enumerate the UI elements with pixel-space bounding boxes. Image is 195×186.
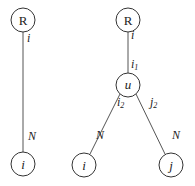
right-tree: R u i j i i1 i2 j2 N N <box>72 8 183 177</box>
internal-node-label: u <box>125 77 132 92</box>
root-node-label: R <box>124 13 133 28</box>
tree-diagram: R i i N R u i j i i1 i2 j2 N N <box>0 0 195 186</box>
left-tree: R i i N <box>11 8 37 176</box>
edge-label-left-top: i2 <box>117 95 124 110</box>
edge-label-u-top: i1 <box>131 57 138 72</box>
edge-label-left-top-sub: 2 <box>120 101 124 110</box>
leaf-i-label: i <box>82 158 86 173</box>
edge-label-root: i <box>131 28 134 42</box>
edge-label-top: i <box>27 31 30 45</box>
leaf-node-label: i <box>21 157 25 172</box>
edge-label-right-top: j2 <box>148 95 157 110</box>
root-node-label: R <box>19 13 28 28</box>
edge-label-right-top-sub: 2 <box>153 101 157 110</box>
edge-label-left-bottom: N <box>95 128 105 142</box>
edge-u-to-i <box>90 94 120 154</box>
edge-label-bottom: N <box>27 129 37 143</box>
edge-label-u-top-sub: 1 <box>134 63 138 72</box>
edge-label-right-bottom: N <box>171 128 181 142</box>
